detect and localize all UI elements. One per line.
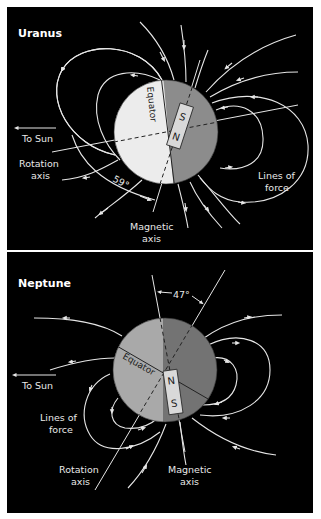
neptune-magnetic-axis-label-1: Magnetic (168, 464, 212, 475)
neptune-lines-of-force-label-1: Lines of (40, 412, 78, 423)
uranus-rotation-axis-label-1: Rotation (19, 158, 59, 169)
neptune-to-sun-label: To Sun (21, 380, 53, 391)
uranus-lines-of-force-label-1: Lines of (258, 170, 296, 181)
uranus-lines-of-force-label-2: force (265, 182, 289, 193)
uranus-to-sun-label: To Sun (21, 133, 53, 144)
neptune-magnetic-axis-label-2: axis (180, 476, 199, 487)
neptune-magnet-top-pole: N (167, 375, 176, 387)
uranus-panel: Uranus (7, 7, 313, 250)
neptune-rotation-axis-label-1: Rotation (59, 464, 99, 475)
neptune-angle-label: 47° (173, 289, 190, 300)
neptune-lines-of-force-label-2: force (49, 424, 73, 435)
uranus-magnetic-axis-label-1: Magnetic (130, 221, 174, 232)
uranus-magnetic-axis-label-2: axis (142, 233, 161, 244)
uranus-rotation-axis-label-2: axis (31, 170, 50, 181)
neptune-title: Neptune (18, 277, 71, 290)
uranus-title: Uranus (18, 27, 62, 40)
neptune-rotation-axis-label-2: axis (71, 476, 90, 487)
neptune-panel: Neptune (7, 252, 313, 513)
magnetic-field-figure: Uranus (0, 0, 321, 519)
